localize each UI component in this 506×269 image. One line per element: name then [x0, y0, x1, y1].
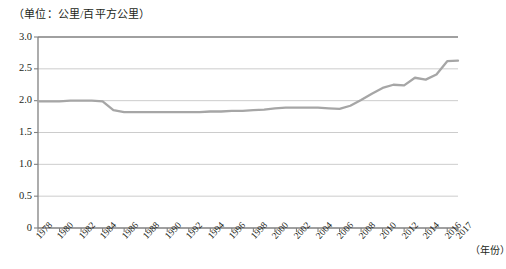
- y-axis-tick-label: 1.5: [2, 126, 32, 137]
- y-axis-tick-label: 3.0: [2, 31, 32, 42]
- y-axis-tick-label: 2.0: [2, 94, 32, 105]
- y-axis-tick-label: 1.0: [2, 158, 32, 169]
- y-axis-tick-label: 0.5: [2, 190, 32, 201]
- data-series-line: [38, 61, 458, 113]
- x-axis-title: （年份）: [470, 242, 506, 257]
- y-axis-tick-label: 0: [2, 222, 32, 233]
- chart-container: （单位：公里/百平方公里） 00.51.01.52.02.53.0 197819…: [0, 0, 506, 269]
- y-axis-tick-label: 2.5: [2, 62, 32, 73]
- gridlines-group: [38, 37, 458, 196]
